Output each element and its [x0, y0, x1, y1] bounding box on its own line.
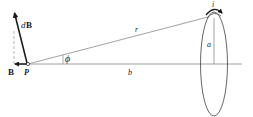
label-B: B: [8, 67, 14, 77]
label-i: i: [212, 0, 214, 9]
label-P: P: [24, 68, 29, 77]
label-r: r: [135, 25, 139, 34]
distance-line-r: [28, 17, 208, 64]
label-phi: ϕ: [65, 53, 70, 64]
label-b: b: [128, 68, 132, 77]
label-dB-B: B: [26, 20, 32, 30]
loop-field-diagram: d B B P ϕ r b a i: [0, 0, 253, 117]
point-P: [26, 62, 29, 65]
label-a: a: [207, 40, 211, 49]
